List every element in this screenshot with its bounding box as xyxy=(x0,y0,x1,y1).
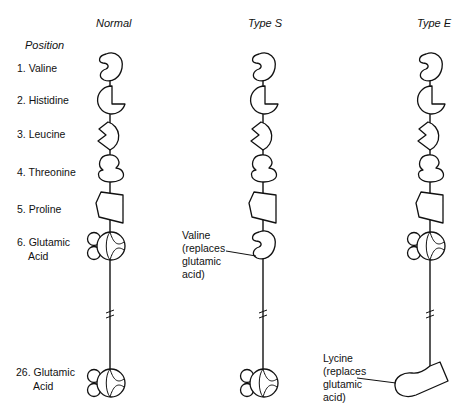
proline-icon xyxy=(416,192,443,223)
histidine-icon xyxy=(251,86,278,114)
glutamic-acid-icon xyxy=(88,369,126,397)
threonine-icon xyxy=(251,155,276,182)
chain-normal xyxy=(88,53,126,397)
leucine-icon xyxy=(418,122,439,150)
histidine-icon xyxy=(418,86,445,114)
glutamic-acid-icon xyxy=(241,369,279,397)
glutamic-acid-icon xyxy=(408,232,446,260)
glutamic-acid-icon xyxy=(88,232,126,260)
proline-icon xyxy=(96,192,123,223)
annotation-pointer xyxy=(226,251,256,256)
valine-icon xyxy=(100,53,123,81)
lysine-substitution-icon xyxy=(395,362,448,396)
hemoglobin-chain-diagram xyxy=(0,0,461,411)
histidine-icon xyxy=(98,86,125,114)
valine-icon xyxy=(253,53,276,81)
leucine-icon xyxy=(251,122,272,150)
threonine-icon xyxy=(98,155,123,182)
valine-icon xyxy=(420,53,443,81)
threonine-icon xyxy=(418,155,443,182)
leucine-icon xyxy=(98,122,119,150)
proline-icon xyxy=(249,192,276,223)
chain-type-e xyxy=(357,53,448,397)
chain-type-s xyxy=(226,53,278,397)
annotation-pointer xyxy=(357,378,396,383)
valine-substitution-icon xyxy=(253,231,276,259)
